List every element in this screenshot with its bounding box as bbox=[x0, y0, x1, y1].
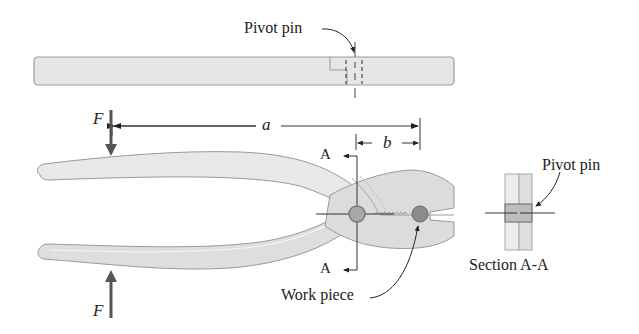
section-marker-top: A bbox=[320, 147, 331, 162]
pivot-pin-label-top: Pivot pin bbox=[244, 20, 302, 36]
dimension-a-label: a bbox=[262, 116, 271, 133]
section-view bbox=[485, 172, 560, 250]
force-arrows bbox=[105, 110, 117, 318]
force-label-top: F bbox=[93, 110, 103, 127]
section-marker-bottom: A bbox=[320, 261, 331, 276]
pivot-pin-circle bbox=[349, 206, 365, 222]
section-caption: Section A-A bbox=[469, 257, 549, 273]
force-label-bottom: F bbox=[93, 302, 103, 319]
pliers bbox=[37, 152, 454, 298]
pivot-pin-leader-section bbox=[536, 172, 560, 206]
dimension-b-label: b bbox=[383, 134, 392, 151]
top-view bbox=[34, 29, 454, 98]
top-view-bar bbox=[34, 57, 454, 85]
pliers-diagram: Pivot pin F F a b A A Work piece Pivot p… bbox=[0, 0, 639, 334]
lower-handle bbox=[38, 208, 360, 269]
work-piece-label: Work piece bbox=[281, 287, 354, 303]
pivot-pin-leader-top bbox=[322, 29, 354, 52]
work-piece-circle bbox=[412, 206, 428, 222]
pivot-pin-label-section: Pivot pin bbox=[542, 157, 600, 173]
